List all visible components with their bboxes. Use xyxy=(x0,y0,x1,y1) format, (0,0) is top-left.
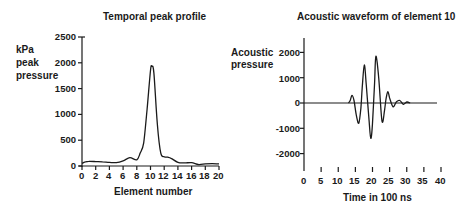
waveform-line xyxy=(349,56,411,138)
right-axes xyxy=(300,38,441,172)
plot-canvas xyxy=(0,0,462,212)
left-axes xyxy=(78,37,219,170)
peak-profile-line xyxy=(82,66,219,165)
